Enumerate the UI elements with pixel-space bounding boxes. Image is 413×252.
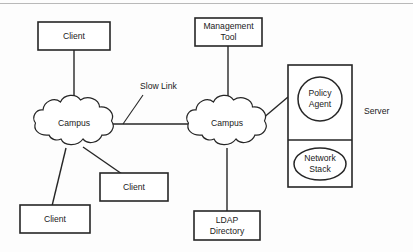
node-client-middle[interactable]: Client — [100, 173, 168, 201]
edge-campus-left-to-client-bottom — [52, 148, 66, 206]
campus-right-label: Campus — [211, 118, 243, 128]
client-middle-label: Client — [123, 182, 146, 192]
ldap-directory-label-line2: Directory — [210, 226, 245, 236]
slow-link-label: Slow Link — [140, 81, 177, 91]
client-bottom-label: Client — [44, 214, 67, 224]
campus-left-label: Campus — [58, 118, 90, 128]
management-tool-label-line2: Tool — [221, 32, 237, 42]
node-client-bottom[interactable]: Client — [20, 205, 90, 233]
node-campus-left[interactable]: Campus — [34, 95, 113, 144]
network-diagram: Client Campus Slow Link Client Client Ma… — [0, 0, 413, 252]
server-label: Server — [364, 106, 389, 116]
ldap-directory-label-line1: LDAP — [216, 215, 239, 225]
edge-campus-left-to-client-middle — [83, 147, 122, 174]
network-stack-label-line2: Stack — [309, 164, 331, 174]
node-management-tool[interactable]: Management Tool — [195, 18, 262, 46]
diagram-canvas: Client Campus Slow Link Client Client Ma… — [0, 0, 413, 252]
network-stack-label-line1: Network — [304, 153, 336, 163]
node-client-top[interactable]: Client — [38, 22, 110, 50]
node-ldap-directory[interactable]: LDAP Directory — [194, 211, 260, 240]
client-top-label: Client — [63, 31, 86, 41]
node-campus-right[interactable]: Campus — [187, 95, 266, 144]
slow-link-leader-line — [123, 95, 143, 124]
node-policy-agent[interactable]: Policy Agent — [298, 77, 342, 121]
policy-agent-label-line2: Agent — [309, 99, 332, 109]
policy-agent-label-line1: Policy — [309, 88, 333, 98]
management-tool-label-line1: Management — [203, 21, 254, 31]
node-server[interactable]: Policy Agent Network Stack Server — [288, 65, 389, 187]
node-network-stack[interactable]: Network Stack — [294, 148, 346, 180]
